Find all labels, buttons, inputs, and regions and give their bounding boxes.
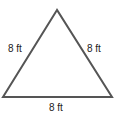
triangle-diagram: 8 ft 8 ft 8 ft [0,0,119,115]
right-side-label: 8 ft [87,43,101,54]
bottom-side-label: 8 ft [49,102,63,113]
left-side-label: 8 ft [8,43,22,54]
